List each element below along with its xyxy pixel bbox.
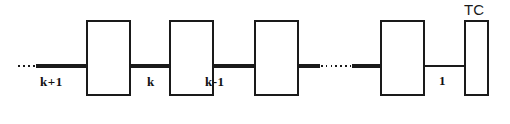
- block-one: [381, 21, 424, 95]
- block-k-minus-1: [255, 21, 298, 95]
- label-k: k: [147, 75, 155, 88]
- label-one: 1: [439, 74, 446, 87]
- label-k-minus-1: k-1: [205, 75, 225, 88]
- chain-block-diagram: k+1 k k-1 1 TC: [0, 0, 510, 124]
- label-k-plus-1: k+1: [40, 75, 63, 88]
- label-tc: TC: [464, 2, 484, 17]
- block-k-plus-1: [87, 21, 130, 95]
- diagram-canvas: [0, 0, 510, 124]
- block-tc: [465, 21, 488, 95]
